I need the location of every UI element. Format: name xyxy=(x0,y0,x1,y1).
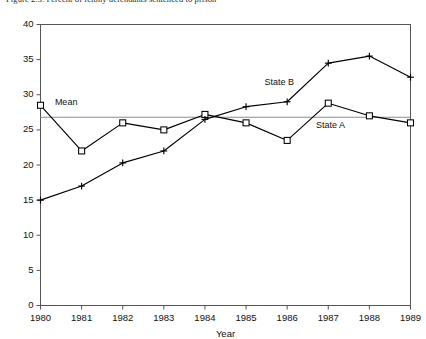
data-point-marker-plus xyxy=(119,159,126,166)
y-tick-label: 5 xyxy=(28,264,33,275)
series-line-state-a xyxy=(41,103,411,151)
y-tick-label: 40 xyxy=(23,18,34,29)
x-tick-label: 1980 xyxy=(30,312,51,323)
x-axis-title: Year xyxy=(216,328,235,339)
data-point-marker-square xyxy=(284,137,290,143)
data-point-marker-square xyxy=(366,113,372,119)
x-tick-label: 1982 xyxy=(112,312,133,323)
chart-container: 0510152025303540 19801981198219831984198… xyxy=(0,0,426,339)
annotation-state-a: State A xyxy=(316,120,345,130)
y-tick-label: 10 xyxy=(23,229,34,240)
y-tick-label: 0 xyxy=(28,299,33,310)
line-chart: 0510152025303540 19801981198219831984198… xyxy=(0,0,426,339)
x-tick-label: 1981 xyxy=(71,312,92,323)
x-tick-label: 1984 xyxy=(194,312,215,323)
plot-frame xyxy=(41,25,411,306)
data-point-marker-plus xyxy=(37,197,44,204)
y-tick-label: 15 xyxy=(23,194,34,205)
data-point-marker-plus xyxy=(366,53,373,60)
data-series-markers xyxy=(37,53,414,204)
data-point-marker-square xyxy=(38,102,44,108)
x-tick-label: 1983 xyxy=(153,312,174,323)
x-tick-label: 1987 xyxy=(318,312,339,323)
data-point-marker-square xyxy=(325,100,331,106)
data-point-marker-square xyxy=(120,120,126,126)
annotation-mean: Mean xyxy=(55,97,78,107)
y-tick-label: 30 xyxy=(23,88,34,99)
data-point-marker-plus xyxy=(243,103,250,110)
x-tick-label: 1986 xyxy=(277,312,298,323)
data-series-lines xyxy=(41,56,411,200)
data-point-marker-plus xyxy=(78,183,85,190)
data-point-marker-square xyxy=(161,127,167,133)
y-axis-ticks: 0510152025303540 xyxy=(23,18,41,310)
x-tick-label: 1989 xyxy=(400,312,421,323)
data-point-marker-square xyxy=(79,148,85,154)
data-point-marker-square xyxy=(408,120,414,126)
y-tick-label: 20 xyxy=(23,159,34,170)
series-line-state-b xyxy=(41,56,411,200)
x-tick-label: 1988 xyxy=(359,312,380,323)
x-tick-label: 1985 xyxy=(235,312,256,323)
x-axis-title-label: Year xyxy=(216,328,235,339)
annotation-state-b: State B xyxy=(265,77,295,87)
series-annotations: MeanState BState A xyxy=(55,77,345,130)
y-tick-label: 35 xyxy=(23,53,34,64)
y-tick-label: 25 xyxy=(23,123,34,134)
data-point-marker-plus xyxy=(407,74,414,81)
x-axis-ticks: 1980198119821983198419851986198719881989 xyxy=(30,306,421,323)
data-point-marker-square xyxy=(243,120,249,126)
